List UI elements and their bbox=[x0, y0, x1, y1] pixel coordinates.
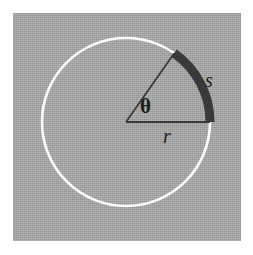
radius-label: r bbox=[163, 126, 171, 146]
angle-theta-label: θ bbox=[140, 96, 151, 117]
arc-length-label: s bbox=[205, 70, 213, 90]
figure-root: θ r s bbox=[0, 0, 253, 255]
geometry-layer bbox=[0, 0, 253, 255]
